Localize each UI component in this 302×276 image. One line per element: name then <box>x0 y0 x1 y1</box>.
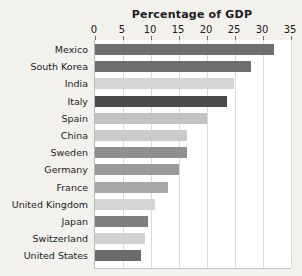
bar <box>95 61 251 72</box>
category-label: Spain <box>0 110 88 127</box>
bar <box>95 182 168 193</box>
bar <box>95 96 227 107</box>
x-tick-label: 15 <box>172 24 185 36</box>
category-label: Japan <box>0 213 88 230</box>
x-tick-label: 5 <box>119 24 125 36</box>
bar <box>95 233 145 244</box>
category-label: Switzerland <box>0 230 88 247</box>
chart-row: Switzerland <box>0 230 302 247</box>
chart-row: Spain <box>0 110 302 127</box>
x-tick-label: 10 <box>144 24 157 36</box>
chart-row: Sweden <box>0 144 302 161</box>
bar <box>95 164 179 175</box>
x-tick-label: 30 <box>256 24 269 36</box>
chart-row: France <box>0 179 302 196</box>
chart-rows: MexicoSouth KoreaIndiaItalySpainChinaSwe… <box>0 40 302 268</box>
chart-row: Italy <box>0 93 302 110</box>
category-label: South Korea <box>0 58 88 75</box>
category-label: India <box>0 75 88 92</box>
bar <box>95 250 141 261</box>
bar <box>95 44 274 55</box>
category-label: Italy <box>0 93 88 110</box>
x-axis-line <box>94 268 291 269</box>
category-label: United States <box>0 247 88 264</box>
chart-row: Mexico <box>0 41 302 58</box>
category-label: United Kingdom <box>0 196 88 213</box>
bar <box>95 216 148 227</box>
chart-row: China <box>0 127 302 144</box>
category-label: China <box>0 127 88 144</box>
chart-row: Japan <box>0 213 302 230</box>
category-label: France <box>0 179 88 196</box>
category-label: Germany <box>0 161 88 178</box>
x-tick-label: 0 <box>91 24 97 36</box>
chart-row: United Kingdom <box>0 196 302 213</box>
bar <box>95 113 207 124</box>
bar <box>95 78 234 89</box>
x-tick-label: 25 <box>228 24 241 36</box>
chart-row: South Korea <box>0 58 302 75</box>
x-tick-label: 20 <box>200 24 213 36</box>
chart-row: United States <box>0 247 302 264</box>
chart-row: India <box>0 75 302 92</box>
bar-chart: Percentage of GDP 05101520253035 MexicoS… <box>0 0 302 276</box>
category-label: Sweden <box>0 144 88 161</box>
x-tick-label: 35 <box>284 24 297 36</box>
bar <box>95 130 187 141</box>
chart-title: Percentage of GDP <box>94 8 290 21</box>
chart-row: Germany <box>0 161 302 178</box>
category-label: Mexico <box>0 41 88 58</box>
bar <box>95 147 187 158</box>
bar <box>95 199 155 210</box>
